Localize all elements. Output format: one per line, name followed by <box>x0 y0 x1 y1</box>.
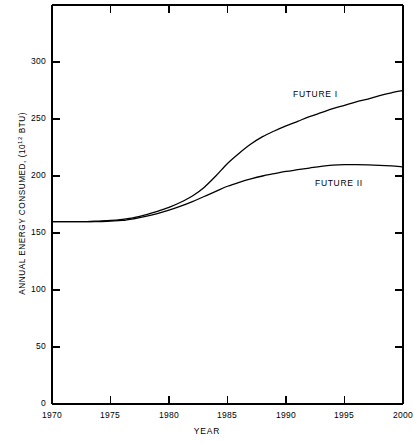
x-tick-label-2000: 2000 <box>383 410 414 420</box>
y-axis-ticks-right <box>395 62 403 347</box>
x-axis-ticks <box>111 396 345 404</box>
y-axis-title-exponent: 12 <box>17 136 23 144</box>
x-tick-label-1980: 1980 <box>149 410 189 420</box>
series-label-future-1: FUTURE I <box>293 89 338 99</box>
series-line-future-1 <box>52 91 403 222</box>
x-tick-label-1970: 1970 <box>32 410 72 420</box>
x-tick-label-1985: 1985 <box>207 410 247 420</box>
y-axis-title-main: ANNUAL ENERGY CONSUMED, (10 <box>18 144 27 295</box>
series-line-future-2 <box>52 165 403 222</box>
plot-area <box>0 0 414 443</box>
y-tick-label-0: 0 <box>14 398 46 408</box>
y-axis-title: ANNUAL ENERGY CONSUMED, (1012 BTU) <box>17 93 28 313</box>
axis-lines <box>52 5 403 404</box>
energy-consumption-chart: 0 50 100 150 200 250 300 1970 1975 1980 … <box>0 0 414 443</box>
y-axis-ticks <box>52 62 60 404</box>
x-axis-title: YEAR <box>0 426 414 436</box>
series-label-future-2: FUTURE II <box>315 178 363 188</box>
y-tick-label-50: 50 <box>14 341 46 351</box>
x-axis-ticks-top <box>111 5 345 13</box>
y-tick-label-300: 300 <box>14 56 46 66</box>
y-axis-title-tail: BTU) <box>18 112 27 136</box>
x-tick-label-1995: 1995 <box>324 410 364 420</box>
data-series-group <box>52 91 403 222</box>
x-tick-label-1990: 1990 <box>266 410 306 420</box>
x-tick-label-1975: 1975 <box>90 410 130 420</box>
